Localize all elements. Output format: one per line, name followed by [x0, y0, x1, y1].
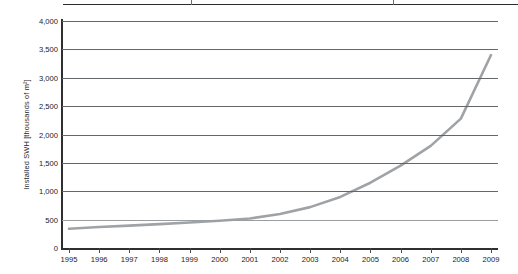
x-axis-tick-label: 2004	[332, 255, 349, 264]
y-axis-tick-label: 3,500	[39, 45, 58, 54]
y-axis-tick-label: 2,500	[39, 102, 58, 111]
gridline	[62, 191, 498, 192]
gridline	[62, 135, 498, 136]
x-axis-tick	[220, 248, 221, 253]
gridline	[62, 106, 498, 107]
series-polyline	[69, 55, 491, 229]
x-axis-tick	[461, 248, 462, 253]
x-axis-tick-label: 2000	[211, 255, 228, 264]
x-axis-tick-label: 2008	[452, 255, 469, 264]
x-axis-tick-label: 2007	[422, 255, 439, 264]
y-axis-tick-labels: 05001,0001,5002,0002,5003,0003,5004,000	[24, 0, 58, 274]
plot-area	[62, 21, 498, 248]
y-axis-tick-label: 1,000	[39, 187, 58, 196]
x-axis-tick-label: 2009	[483, 255, 500, 264]
x-axis-tick-label: 1996	[91, 255, 108, 264]
y-axis-tick-label: 4,000	[39, 17, 58, 26]
chart-figure: Installed SWH [thousands of m²] 05001,00…	[0, 0, 518, 274]
x-axis-tick-label: 1995	[61, 255, 78, 264]
y-axis-tick-label: 3,000	[39, 73, 58, 82]
x-axis-tick-label: 2001	[241, 255, 258, 264]
x-axis-tick	[431, 248, 432, 253]
y-axis-tick-label: 2,000	[39, 130, 58, 139]
x-axis-tick	[401, 248, 402, 253]
x-axis-tick-label: 2006	[392, 255, 409, 264]
gridline	[62, 220, 498, 221]
x-axis-ticks	[62, 248, 498, 253]
table-column-separator	[191, 0, 192, 5]
x-axis-tick-label: 1998	[151, 255, 168, 264]
gridline	[62, 78, 498, 79]
x-axis-tick-labels: 1995199619971998199920002001200220032004…	[62, 255, 498, 269]
x-axis-tick	[69, 248, 70, 253]
y-axis-tick-label: 500	[45, 215, 58, 224]
table-column-separator	[393, 0, 394, 5]
gridline	[62, 163, 498, 164]
x-axis-tick	[310, 248, 311, 253]
x-axis-tick	[159, 248, 160, 253]
x-axis-tick	[280, 248, 281, 253]
x-axis-tick-label: 1997	[121, 255, 138, 264]
y-axis-tick-label: 0	[54, 244, 58, 253]
gridline	[62, 49, 498, 50]
x-axis-tick	[99, 248, 100, 253]
x-axis-tick-label: 2003	[302, 255, 319, 264]
x-axis-tick-label: 2005	[362, 255, 379, 264]
table-border-fragment	[63, 0, 518, 5]
x-axis-tick	[129, 248, 130, 253]
x-axis-tick	[250, 248, 251, 253]
x-axis-tick	[340, 248, 341, 253]
y-axis-tick-label: 1,500	[39, 158, 58, 167]
x-axis-tick	[190, 248, 191, 253]
x-axis-tick	[491, 248, 492, 253]
gridline	[62, 21, 498, 22]
x-axis-tick	[370, 248, 371, 253]
x-axis-tick-label: 2002	[272, 255, 289, 264]
x-axis-tick-label: 1999	[181, 255, 198, 264]
